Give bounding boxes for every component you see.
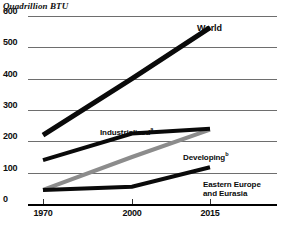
series-label-developing-text: Developing [183, 153, 225, 162]
series-label-industrialized-text: Industrialized [100, 128, 150, 137]
x-tick-label-2015: 2015 [200, 208, 219, 218]
series-label-world: World [197, 24, 222, 33]
y-tick-label-100: 100 [3, 163, 29, 173]
series-label-industrialized: Industrializeda [100, 125, 153, 137]
y-tick-label-400: 400 [3, 69, 29, 79]
series-label-eastern-line1: Eastern Europe [203, 180, 261, 189]
x-tick-label-1970: 1970 [33, 208, 52, 218]
series-label-world-text: World [197, 23, 222, 33]
series-line-world [43, 28, 210, 136]
series-label-developing: Developingb [183, 150, 228, 162]
series-label-industrialized-footnote: a [150, 126, 153, 132]
x-tick-label-2000: 2000 [122, 208, 141, 218]
series-label-developing-footnote: b [225, 151, 228, 157]
x-tick-mark-2000 [132, 199, 133, 204]
series-label-eastern-europe-eurasia: Eastern Europe and Eurasia [203, 180, 261, 198]
y-tick-label-0: 0 [3, 194, 29, 204]
series-label-eastern-line2: and Eurasia [203, 189, 261, 198]
x-tick-mark-2015 [210, 199, 211, 204]
y-tick-label-200: 200 [3, 131, 29, 141]
y-tick-label-600: 600 [3, 6, 29, 16]
energy-consumption-line-chart: Quadrillion BTU World Industrializeda De… [0, 0, 281, 231]
y-tick-label-500: 500 [3, 37, 29, 47]
x-tick-mark-1970 [43, 199, 44, 204]
y-tick-label-300: 300 [3, 100, 29, 110]
